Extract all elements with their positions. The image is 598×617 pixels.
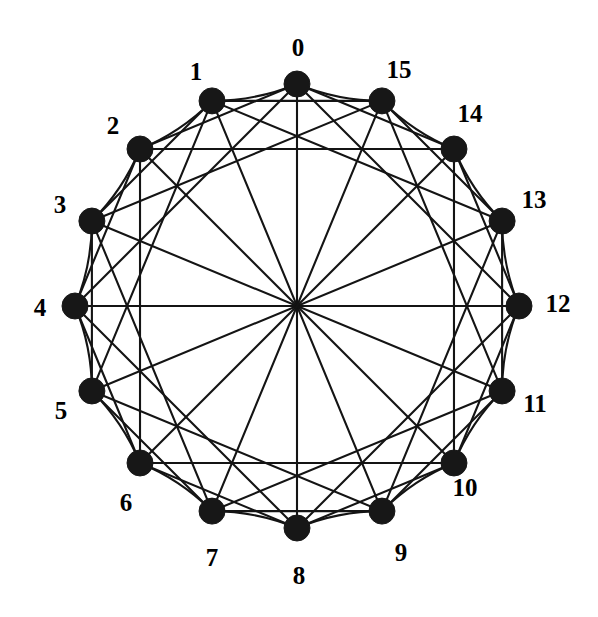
node-label-4: 4 [34, 294, 47, 321]
node-label-13: 13 [522, 186, 547, 213]
graph-node-15[interactable] [369, 88, 395, 114]
graph-node-0[interactable] [284, 71, 310, 97]
node-label-2: 2 [107, 112, 120, 139]
node-label-0: 0 [292, 34, 305, 61]
graph-node-13[interactable] [489, 208, 515, 234]
node-label-5: 5 [55, 397, 68, 424]
node-label-3: 3 [54, 191, 67, 218]
graph-node-6[interactable] [127, 450, 153, 476]
graph-node-8[interactable] [284, 515, 310, 541]
graph-node-11[interactable] [489, 378, 515, 404]
node-label-12: 12 [546, 290, 571, 317]
node-label-8: 8 [293, 562, 306, 589]
graph-node-3[interactable] [79, 208, 105, 234]
graph-node-7[interactable] [199, 498, 225, 524]
graph-node-9[interactable] [369, 498, 395, 524]
circulant-graph-diagram: 0123456789101112131415 [0, 0, 598, 617]
graph-node-5[interactable] [79, 378, 105, 404]
node-label-6: 6 [120, 489, 133, 516]
graph-canvas: 0123456789101112131415 [0, 0, 598, 617]
node-label-1: 1 [190, 58, 203, 85]
graph-node-1[interactable] [199, 88, 225, 114]
node-label-9: 9 [395, 539, 408, 566]
graph-node-14[interactable] [441, 136, 467, 162]
graph-node-4[interactable] [62, 293, 88, 319]
node-label-7: 7 [206, 544, 219, 571]
node-label-14: 14 [458, 100, 484, 127]
node-label-10: 10 [453, 474, 478, 501]
node-label-11: 11 [523, 390, 547, 417]
graph-node-10[interactable] [441, 450, 467, 476]
graph-node-12[interactable] [506, 293, 532, 319]
node-label-15: 15 [387, 56, 412, 83]
graph-node-2[interactable] [127, 136, 153, 162]
